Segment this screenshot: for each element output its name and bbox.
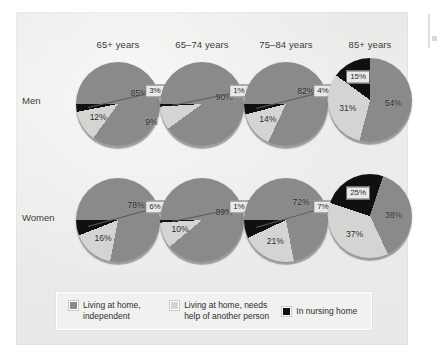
column-header-65-74: 65–74 years — [159, 39, 245, 50]
legend-label-needs-help-line2: help of another person — [184, 311, 269, 322]
legend-item-nursing-home: In nursing home — [282, 306, 365, 317]
page-edge-dot — [432, 36, 437, 41]
pie-slice-label: 38% — [385, 210, 402, 220]
legend-item-independent: Living at home, independent — [63, 300, 170, 322]
figure-root: 65+ years 65–74 years 75–84 years 85+ ye… — [0, 0, 444, 357]
page-edge-marker — [428, 14, 438, 48]
legend-label-independent: Living at home, independent — [83, 300, 141, 322]
row-label-men: Men — [22, 95, 76, 106]
pie-slices — [244, 178, 328, 262]
pie-slice-label: 31% — [339, 103, 356, 113]
legend-label-needs-help-line1: Living at home, needs — [184, 300, 269, 311]
pie-chart: 78%16%6% — [76, 178, 160, 262]
pie-chart: 82%14%4% — [244, 62, 328, 146]
column-header-65-plus: 65+ years — [75, 39, 161, 50]
pie-chart: 72%21%7% — [244, 178, 328, 262]
pie-slice-label: 72% — [292, 197, 309, 207]
legend-label-nursing-home: In nursing home — [296, 306, 357, 317]
pie-slice-label: 25% — [346, 186, 370, 199]
pie-slice-label: 9% — [145, 117, 157, 127]
pie-slices — [76, 62, 160, 146]
pie-slice-label: 12% — [90, 112, 107, 122]
pie-slices — [244, 62, 328, 146]
legend-label-independent-line2: independent — [83, 311, 141, 322]
legend-label-needs-help: Living at home, needs help of another pe… — [184, 300, 269, 322]
pie-slice-label: 16% — [94, 233, 111, 243]
column-header-85-plus: 85+ years — [327, 39, 413, 50]
pie-slice-label: 78% — [128, 200, 145, 210]
legend-label-nursing-home-line1: In nursing home — [296, 306, 357, 317]
column-header-75-84: 75–84 years — [243, 39, 329, 50]
legend-label-independent-line1: Living at home, — [83, 300, 141, 311]
pie-slice-label: 37% — [346, 229, 363, 239]
pie-slices — [76, 178, 160, 262]
pie-slice-label: 54% — [385, 98, 402, 108]
legend-item-needs-help: Living at home, needs help of another pe… — [170, 300, 282, 322]
legend: Living at home, independent Living at ho… — [56, 292, 372, 330]
legend-swatch-independent — [69, 301, 78, 310]
legend-swatch-nursing-home — [282, 307, 291, 316]
pie-chart: 85%12%3% — [76, 62, 160, 146]
legend-swatch-needs-help — [170, 301, 179, 310]
row-label-women: Women — [22, 212, 76, 223]
pie-chart: 90%9%1% — [160, 62, 244, 146]
pie-slice-label: 14% — [259, 114, 276, 124]
pie-slice-label: 10% — [172, 224, 189, 234]
pie-slice-label: 15% — [346, 70, 370, 83]
pie-chart: 54%31%15% — [328, 58, 412, 142]
pie-chart: 38%37%25% — [328, 174, 412, 258]
pie-slice-label: 21% — [267, 236, 284, 246]
pie-chart: 89%10%1% — [160, 178, 244, 262]
